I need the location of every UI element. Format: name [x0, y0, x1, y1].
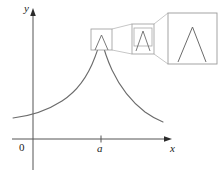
- figure-self-similar-cusp-plot: y x 0 a: [0, 0, 222, 175]
- y-axis-label: y: [24, 3, 29, 14]
- inset-zoom-1: [91, 29, 112, 50]
- connector-1-bottom: [112, 50, 132, 54]
- connector-1-top: [112, 24, 132, 29]
- connector-2-top: [154, 13, 168, 24]
- plot-canvas: [0, 0, 222, 175]
- inset-zoom-3: [168, 13, 217, 64]
- y-axis-arrowhead: [30, 8, 36, 16]
- x-tick-label-a: a: [97, 143, 103, 154]
- inset-zoom-2: [132, 24, 154, 54]
- inset-zoom-3-border: [168, 13, 217, 64]
- x-axis-arrowhead: [164, 136, 172, 142]
- cusp-curve-left: [13, 38, 101, 118]
- connector-2-bottom: [154, 54, 168, 64]
- x-axis-label: x: [170, 143, 175, 154]
- inset-zoom-1-border: [91, 29, 112, 50]
- origin-label: 0: [19, 142, 25, 153]
